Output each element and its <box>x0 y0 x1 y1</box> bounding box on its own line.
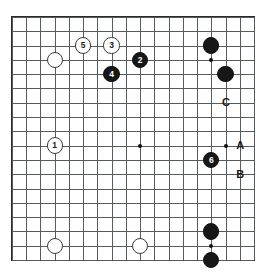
stone-move-number: 6 <box>209 156 214 165</box>
star-point-upper-right <box>209 58 213 62</box>
white-stone-move-5[interactable]: 5 <box>75 37 91 53</box>
go-diagram-screenshot: 532416 CAB <box>0 0 265 277</box>
grid-line-horizontal <box>12 117 254 118</box>
grid-line-vertical <box>154 17 155 260</box>
grid-line-vertical <box>226 17 227 260</box>
grid-line-vertical <box>69 17 70 260</box>
grid-line-horizontal <box>12 88 254 89</box>
black-stone-move-2[interactable]: 2 <box>132 52 148 68</box>
grid-line-vertical <box>97 17 98 260</box>
stone-move-number: 2 <box>138 56 143 65</box>
grid-line-vertical <box>183 17 184 260</box>
black-stone-plain-lower-right-b[interactable] <box>203 252 219 268</box>
grid-line-horizontal <box>12 174 254 175</box>
stone-move-number: 5 <box>81 41 86 50</box>
black-stone-move-4[interactable]: 4 <box>103 66 119 82</box>
grid-line-vertical <box>40 17 41 260</box>
grid-line-vertical <box>126 17 127 260</box>
star-point-center <box>138 144 142 148</box>
go-board[interactable]: 532416 CAB <box>5 10 259 265</box>
board-frame: 532416 CAB <box>11 16 255 261</box>
white-stone-plain-lower-left[interactable] <box>47 238 63 254</box>
grid-line-horizontal <box>12 31 254 32</box>
star-point-right <box>224 144 228 148</box>
black-stone-plain-lower-right-a[interactable] <box>203 223 219 239</box>
white-stone-plain-lower-center[interactable] <box>132 238 148 254</box>
grid-line-horizontal <box>12 17 254 18</box>
white-stone-plain-upper-left[interactable] <box>47 52 63 68</box>
grid-line-horizontal <box>12 203 254 204</box>
point-label-a: A <box>236 140 244 151</box>
white-stone-move-3[interactable]: 3 <box>103 37 119 53</box>
point-label-b: B <box>236 169 244 180</box>
grid-line-horizontal <box>12 217 254 218</box>
grid-line-vertical <box>197 17 198 260</box>
grid-line-vertical <box>254 17 255 260</box>
grid-line-vertical <box>12 17 13 260</box>
grid-line-vertical <box>169 17 170 260</box>
black-stone-move-6[interactable]: 6 <box>203 152 219 168</box>
star-point-lower-right <box>209 244 213 248</box>
black-stone-plain-upper-right-b[interactable] <box>217 66 233 82</box>
point-label-c: C <box>222 97 230 108</box>
stone-move-number: 1 <box>52 141 57 150</box>
stone-move-number: 4 <box>109 70 114 79</box>
grid-line-horizontal <box>12 189 254 190</box>
grid-line-horizontal <box>12 131 254 132</box>
grid-line-vertical <box>26 17 27 260</box>
white-stone-move-1[interactable]: 1 <box>47 137 63 153</box>
stone-move-number: 3 <box>109 41 114 50</box>
grid-line-horizontal <box>12 103 254 104</box>
black-stone-plain-upper-right-a[interactable] <box>203 37 219 53</box>
